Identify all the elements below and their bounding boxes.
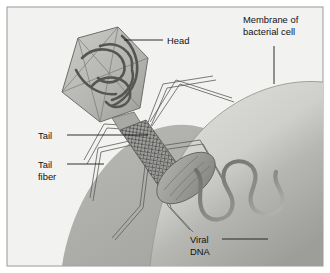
- label-viral-dna-line2: DNA: [190, 246, 211, 257]
- label-membrane-line1: Membrane of: [243, 14, 299, 25]
- label-tail: Tail: [38, 130, 52, 141]
- label-viral-dna-line1: Viral: [190, 234, 209, 245]
- bacteriophage-diagram: Head Membrane of bacterial cell Tail Tai…: [0, 0, 330, 273]
- label-membrane-line2: bacterial cell: [243, 26, 295, 37]
- label-tail-fiber-line2: fiber: [38, 171, 56, 182]
- label-head: Head: [167, 35, 189, 46]
- label-tail-fiber-line1: Tail: [38, 159, 52, 170]
